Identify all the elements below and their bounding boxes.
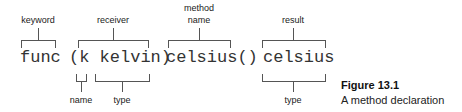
label-receiver-type: type xyxy=(113,94,130,106)
label-method-line2: name xyxy=(188,14,211,26)
result-stem xyxy=(293,28,294,40)
receiver-name-bracket xyxy=(76,74,87,82)
label-receiver: receiver xyxy=(97,14,129,26)
receiver-bracket xyxy=(78,40,149,48)
receiver-stem xyxy=(113,28,114,40)
receiver-type-stem xyxy=(122,82,123,92)
label-result: result xyxy=(282,14,304,26)
result-bracket-top xyxy=(262,40,326,48)
result-type-stem xyxy=(293,82,294,92)
receiver-name-stem xyxy=(81,82,82,92)
method-stem xyxy=(199,28,200,40)
label-receiver-name: name xyxy=(70,94,93,106)
label-keyword: keyword xyxy=(21,14,55,26)
code-keyword: func xyxy=(20,48,61,68)
method-bracket xyxy=(168,40,231,48)
receiver-type-bracket xyxy=(95,74,150,82)
figure-number: Figure 13.1 xyxy=(341,79,399,91)
label-method-line1: method xyxy=(184,2,214,14)
keyword-bracket xyxy=(21,40,56,48)
keyword-stem xyxy=(38,28,39,40)
label-result-type: type xyxy=(284,94,301,106)
code-method: celsius() xyxy=(166,48,258,68)
code-receiver: (k kelvin) xyxy=(69,48,171,68)
code-result: celsius xyxy=(263,48,334,68)
result-bracket-bottom xyxy=(262,74,326,82)
figure-caption: A method declaration xyxy=(341,94,444,106)
